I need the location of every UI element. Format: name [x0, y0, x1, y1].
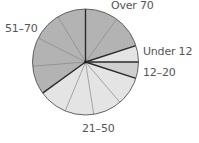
label-under-12: Under 12 — [143, 45, 192, 58]
label-51-70: 51–70 — [5, 22, 38, 35]
label-12-20: 12–20 — [143, 66, 176, 79]
label-21-50: 21–50 — [82, 122, 115, 135]
label-over-70: Over 70 — [111, 0, 154, 12]
pie-center-dot — [84, 61, 87, 64]
